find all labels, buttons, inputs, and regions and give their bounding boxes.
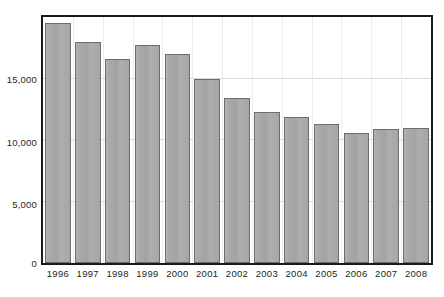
bar [254, 112, 280, 263]
x-tick-label: 1996 [43, 269, 73, 279]
bar [284, 117, 310, 263]
bar [75, 42, 101, 263]
bar [344, 133, 370, 263]
y-tick-label: 15,000 [1, 75, 37, 85]
x-tick-label: 2003 [252, 269, 282, 279]
y-tick-label: 10,000 [1, 138, 37, 148]
plot-area [41, 15, 433, 265]
y-axis: 15,000 10,000 5,000 0 [0, 0, 37, 297]
x-tick-label: 1999 [133, 269, 163, 279]
x-axis: 1996199719981999200020012002200320042005… [41, 269, 433, 285]
bar-chart: 15,000 10,000 5,000 0 199619971998199920… [0, 0, 444, 297]
x-tick-label: 1998 [103, 269, 133, 279]
x-tick-label: 2006 [341, 269, 371, 279]
bar [314, 124, 340, 263]
x-tick-label: 2007 [371, 269, 401, 279]
x-tick-label: 2008 [401, 269, 431, 279]
x-tick-label: 1997 [73, 269, 103, 279]
x-tick-label: 2002 [222, 269, 252, 279]
bars-layer [43, 17, 431, 263]
x-tick-label: 2005 [312, 269, 342, 279]
x-tick-label: 2001 [192, 269, 222, 279]
bar [105, 59, 131, 263]
bar [135, 45, 161, 263]
y-tick-label: 0 [1, 259, 37, 269]
bar [224, 98, 250, 263]
bar [45, 23, 71, 263]
bar [373, 129, 399, 263]
x-tick-label: 2000 [162, 269, 192, 279]
bar [194, 79, 220, 264]
y-tick-label: 5,000 [1, 200, 37, 210]
x-tick-label: 2004 [282, 269, 312, 279]
bar [403, 128, 429, 263]
bar [165, 54, 191, 263]
